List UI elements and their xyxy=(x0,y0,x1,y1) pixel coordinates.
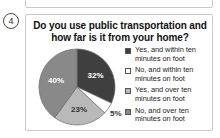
legend-item-label: No, and within ten minutes on foot xyxy=(135,66,211,83)
legend-swatch-icon xyxy=(125,88,131,94)
legend-item: Yes, and within ten minutes on foot xyxy=(125,46,211,63)
legend-swatch-icon xyxy=(125,48,131,54)
legend-item: No, and within ten minutes on foot xyxy=(125,66,211,83)
pie-slice-label: 5% xyxy=(110,109,122,118)
chart-body: 32%5%23%40% Yes, and within ten minutes … xyxy=(26,45,212,130)
legend-swatch-icon xyxy=(125,109,131,115)
question-number-badge: 4 xyxy=(3,13,19,29)
pie-slice-label: 32% xyxy=(88,71,104,80)
legend-item-label: Yes, and over ten minutes on foot xyxy=(135,86,211,103)
pie-slice-label: 23% xyxy=(71,105,87,114)
legend-item-label: No, and over ten minutes on foot xyxy=(135,107,211,124)
question-card: Do you use public transportation and how… xyxy=(25,14,213,131)
pie-chart-svg: 32%5%23%40% xyxy=(32,45,126,130)
legend-item: Yes, and over ten minutes on foot xyxy=(125,86,211,103)
legend-item: No, and over ten minutes on foot xyxy=(125,107,211,124)
legend-item-label: Yes, and within ten minutes on foot xyxy=(135,46,211,63)
chart-title: Do you use public transportation and how… xyxy=(32,20,208,44)
chart-legend: Yes, and within ten minutes on foot No, … xyxy=(125,46,211,127)
legend-swatch-icon xyxy=(125,68,131,74)
pie-chart: 32%5%23%40% xyxy=(32,45,126,130)
pie-slice-label: 40% xyxy=(48,76,64,85)
previous-question-card-edge xyxy=(25,0,213,8)
